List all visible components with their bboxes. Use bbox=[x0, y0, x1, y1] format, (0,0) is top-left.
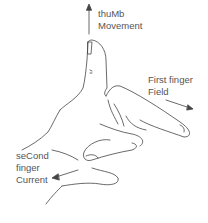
first-finger-label: First finger Field bbox=[148, 74, 193, 98]
field-arrow-icon bbox=[166, 100, 193, 110]
second-finger-label-line1: seCond bbox=[16, 150, 49, 162]
thumb-outline bbox=[88, 40, 107, 96]
first-finger-label-line2: Field bbox=[148, 86, 193, 98]
thumb-label-line1: thuMb bbox=[98, 8, 142, 20]
second-finger-label-line2: finger bbox=[16, 162, 49, 174]
second-finger-label: seCond finger Current bbox=[16, 150, 49, 186]
second-finger-outline bbox=[83, 140, 136, 161]
current-arrow-icon bbox=[52, 170, 78, 180]
second-finger-label-line3: Current bbox=[16, 174, 49, 186]
thumb-label: thuMb Movement bbox=[98, 8, 142, 32]
first-finger-label-line1: First finger bbox=[148, 74, 193, 86]
hand-illustration bbox=[0, 0, 208, 223]
thumb-arrow-icon bbox=[87, 4, 92, 34]
thumb-label-line2: Movement bbox=[98, 20, 142, 32]
